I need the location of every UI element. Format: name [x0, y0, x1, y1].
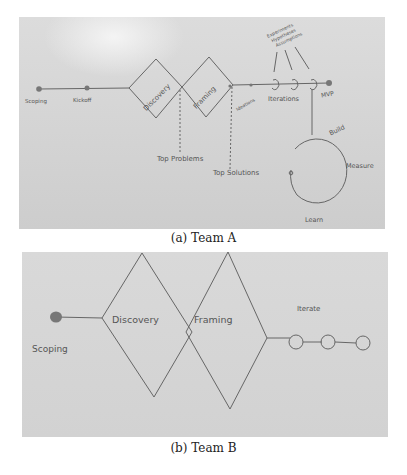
caption-team-b: (b) Team B [0, 441, 407, 455]
label-measure: Measure [346, 162, 374, 170]
team-b-sketch-panel: Scoping Discovery Framing Iterate [22, 252, 388, 437]
team-b-diagram: Scoping Discovery Framing Iterate [22, 252, 388, 437]
team-a-diagram: Scoping Kickoff Discovery Framing Top Pr… [19, 17, 385, 229]
label-top-problems: Top Problems [156, 155, 204, 163]
label-scoping: Scoping [25, 98, 47, 105]
label-scoping: Scoping [32, 344, 68, 354]
label-iterate: Iterate [297, 305, 320, 313]
label-kickoff: Kickoff [73, 97, 92, 103]
team-a-sketch-panel: Scoping Kickoff Discovery Framing Top Pr… [19, 17, 385, 229]
label-framing: Framing [194, 314, 232, 325]
label-framing: Framing [192, 85, 218, 111]
label-mvp: MVP [320, 89, 334, 98]
label-iterations: Iterations [268, 95, 300, 103]
label-ideations: Ideations [235, 97, 256, 112]
label-discovery: Discovery [142, 82, 172, 112]
label-learn: Learn [305, 216, 323, 224]
label-top-solutions: Top Solutions [212, 169, 260, 177]
label-discovery: Discovery [112, 314, 159, 325]
label-build: Build [328, 123, 346, 137]
caption-team-a: (a) Team A [0, 231, 407, 245]
